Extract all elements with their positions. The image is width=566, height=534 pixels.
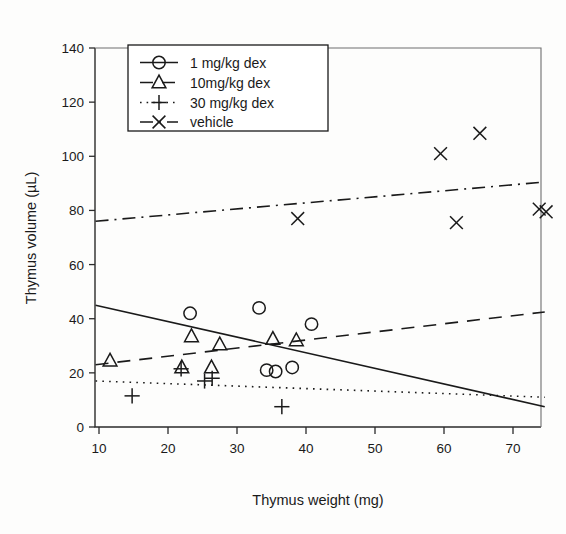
data-point xyxy=(473,127,486,140)
data-point xyxy=(434,147,447,160)
legend-entry-0[interactable]: 1 mg/kg dex xyxy=(140,55,266,71)
data-point xyxy=(289,333,303,346)
data-point xyxy=(185,329,199,342)
trend-line-dashdot xyxy=(96,182,545,221)
data-point xyxy=(291,212,304,225)
y-tick-label: 100 xyxy=(61,149,84,164)
x-tick-label: 50 xyxy=(367,441,382,456)
trend-line-dotted xyxy=(96,381,545,397)
y-tick-label: 60 xyxy=(69,258,84,273)
data-points xyxy=(103,127,552,414)
x-tick-label: 60 xyxy=(436,441,451,456)
x-tick-label: 20 xyxy=(160,441,175,456)
data-point xyxy=(174,361,189,376)
data-point xyxy=(305,318,317,330)
x-tick-label: 40 xyxy=(298,441,313,456)
chart-figure: 02040608010012014010203040506070 Thymus … xyxy=(0,0,566,534)
data-point xyxy=(197,373,212,388)
data-point xyxy=(253,302,265,314)
data-point xyxy=(125,388,140,403)
data-point xyxy=(286,361,298,373)
x-axis-label: Thymus weight (mg) xyxy=(252,492,383,508)
y-tick-label: 20 xyxy=(69,366,84,381)
data-point xyxy=(269,365,281,377)
data-point xyxy=(184,307,196,319)
x-tick-label: 70 xyxy=(505,441,520,456)
chart-legend[interactable]: 1 mg/kg dex10mg/kg dex30 mg/kg dexvehicl… xyxy=(128,45,328,131)
x-tick-label: 10 xyxy=(91,441,106,456)
legend-label: 10mg/kg dex xyxy=(190,75,270,91)
legend-label: 30 mg/kg dex xyxy=(190,95,274,111)
data-point xyxy=(450,216,463,229)
y-tick-label: 40 xyxy=(69,312,84,327)
y-axis-label: Thymus volume (µL) xyxy=(23,172,39,304)
data-point xyxy=(213,337,227,350)
data-point xyxy=(274,399,289,414)
trend-lines xyxy=(96,182,545,407)
y-tick-label: 120 xyxy=(61,95,84,110)
x-tick-label: 30 xyxy=(229,441,244,456)
data-point xyxy=(266,332,280,345)
y-tick-label: 140 xyxy=(61,41,84,56)
y-tick-label: 0 xyxy=(76,420,84,435)
series-cross xyxy=(291,127,552,229)
legend-label: 1 mg/kg dex xyxy=(190,55,266,71)
scatter-plot: 02040608010012014010203040506070 Thymus … xyxy=(0,0,566,534)
y-tick-label: 80 xyxy=(69,203,84,218)
legend-label: vehicle xyxy=(190,114,234,130)
